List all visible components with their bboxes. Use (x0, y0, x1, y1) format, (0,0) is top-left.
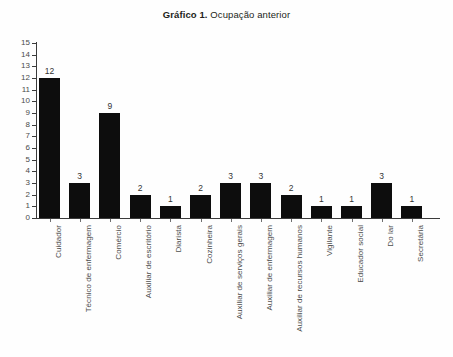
x-axis-tick (170, 219, 171, 222)
x-axis-category-label: Técnico de enfermagem (84, 225, 93, 312)
y-axis-tick-label-wrap: 13 (0, 62, 30, 70)
y-axis-tick-label-wrap: 10 (0, 97, 30, 105)
y-axis-tick-label: 8 (4, 121, 30, 129)
y-axis-tick (32, 78, 36, 79)
y-axis-tick-label: 1 (4, 202, 30, 210)
bar-value-label: 12 (35, 67, 65, 76)
x-axis-tick (80, 219, 81, 222)
y-axis-tick-label: 15 (4, 39, 30, 47)
bar (281, 195, 302, 218)
y-axis-tick (32, 43, 36, 44)
y-axis-tick-label-wrap: 5 (0, 156, 30, 164)
x-axis-tick (321, 219, 322, 222)
y-axis-tick-label: 9 (4, 109, 30, 117)
y-axis-tick-label-wrap: 0 (0, 214, 30, 222)
x-axis-category-label: Auxiliar de escritório (144, 225, 153, 298)
y-axis-tick (32, 206, 36, 207)
x-axis-category-label: Secretária (416, 225, 425, 262)
x-axis-category-label: Cozinheira (205, 225, 214, 264)
y-axis-tick-label: 6 (4, 144, 30, 152)
x-axis-category-label: Diarista (174, 225, 183, 253)
y-axis-tick-label-wrap: 7 (0, 132, 30, 140)
y-axis-tick-label: 5 (4, 156, 30, 164)
y-axis-tick-label-wrap: 4 (0, 167, 30, 175)
x-axis-category-label: Educador social (356, 225, 365, 283)
y-axis-tick-label: 7 (4, 132, 30, 140)
y-axis-tick-label: 14 (4, 51, 30, 59)
x-axis-tick (291, 219, 292, 222)
chart-page: Gráfico 1. Ocupação anterior 15141312111… (0, 0, 453, 357)
x-axis-category-label: Cuidador (54, 225, 63, 258)
y-axis-tick (32, 195, 36, 196)
bar (250, 183, 271, 218)
x-axis-line (36, 218, 440, 219)
y-axis-tick-label: 2 (4, 191, 30, 199)
x-axis-tick (261, 219, 262, 222)
y-axis-tick (32, 183, 36, 184)
bar (69, 183, 90, 218)
bar-value-label: 1 (337, 195, 367, 204)
bar-value-label: 3 (216, 172, 246, 181)
y-axis-tick-label: 13 (4, 62, 30, 70)
y-axis-tick-label-wrap: 15 (0, 39, 30, 47)
y-axis-tick (32, 148, 36, 149)
x-axis-category-label: Auxiliar de enfermagem (265, 225, 274, 311)
x-axis-tick (231, 219, 232, 222)
y-axis-tick-label-wrap: 1 (0, 202, 30, 210)
y-axis-tick (32, 136, 36, 137)
bar (220, 183, 241, 218)
y-axis-tick-label: 0 (4, 214, 30, 222)
bar (401, 206, 422, 218)
y-axis-tick-label-wrap: 9 (0, 109, 30, 117)
y-axis-tick (32, 218, 36, 219)
bar (160, 206, 181, 218)
bar-value-label: 2 (186, 184, 216, 193)
x-axis-category-label: Comércio (114, 225, 123, 260)
x-axis-category-label: Auxiliar de recursos humanos (295, 225, 304, 332)
bar (190, 195, 211, 218)
y-axis-tick-label: 11 (4, 86, 30, 94)
y-axis-tick-label-wrap: 2 (0, 191, 30, 199)
bar-value-label: 2 (125, 184, 155, 193)
bar (130, 195, 151, 218)
bar-value-label: 1 (306, 195, 336, 204)
y-axis-tick-label: 10 (4, 97, 30, 105)
bar-value-label: 1 (397, 195, 427, 204)
bar-value-label: 3 (246, 172, 276, 181)
y-axis-tick (32, 125, 36, 126)
y-axis-tick (32, 113, 36, 114)
y-axis-tick-label: 3 (4, 179, 30, 187)
bar (341, 206, 362, 218)
y-axis-tick (32, 160, 36, 161)
x-axis-tick (382, 219, 383, 222)
y-axis-tick (32, 55, 36, 56)
y-axis-tick-label: 12 (4, 74, 30, 82)
bar-value-label: 1 (155, 195, 185, 204)
bar-value-label: 9 (95, 102, 125, 111)
y-axis-tick (32, 90, 36, 91)
y-axis-tick-label: 4 (4, 167, 30, 175)
bar-value-label: 3 (367, 172, 397, 181)
y-axis-tick (32, 101, 36, 102)
x-axis-tick (352, 219, 353, 222)
y-axis-tick-label-wrap: 14 (0, 51, 30, 59)
x-axis-category-label: Auxiliar de serviços gerais (235, 225, 244, 319)
y-axis-tick-label-wrap: 3 (0, 179, 30, 187)
x-axis-tick (201, 219, 202, 222)
x-axis-tick (50, 219, 51, 222)
x-axis-category-label: Do lar (386, 225, 395, 247)
y-axis-tick-label-wrap: 8 (0, 121, 30, 129)
bar-value-label: 3 (65, 172, 95, 181)
y-axis-tick-label-wrap: 11 (0, 86, 30, 94)
bar-value-label: 2 (276, 184, 306, 193)
bar-chart-plot: 1514131211109876543210 12392123321131 Cu… (0, 0, 453, 357)
x-axis-tick (140, 219, 141, 222)
x-axis-category-label: Vigilante (325, 225, 334, 256)
y-axis-tick-label-wrap: 6 (0, 144, 30, 152)
x-axis-tick (110, 219, 111, 222)
bar (311, 206, 332, 218)
bar (371, 183, 392, 218)
y-axis-tick-label-wrap: 12 (0, 74, 30, 82)
bar (39, 78, 60, 218)
y-axis-tick (32, 171, 36, 172)
